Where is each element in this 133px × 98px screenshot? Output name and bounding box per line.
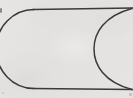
top-edge-line <box>33 8 133 10</box>
shape-diagram <box>0 0 133 98</box>
edge-speck-artifact <box>0 8 2 13</box>
left-round-cap-arc <box>0 10 34 89</box>
corner-speck-bottom-left-artifact <box>2 92 4 94</box>
inner-crescent-arc <box>94 9 132 90</box>
bottom-edge-line <box>33 89 133 90</box>
corner-speck-bottom-right-artifact <box>129 93 132 96</box>
figure-canvas <box>0 0 133 98</box>
